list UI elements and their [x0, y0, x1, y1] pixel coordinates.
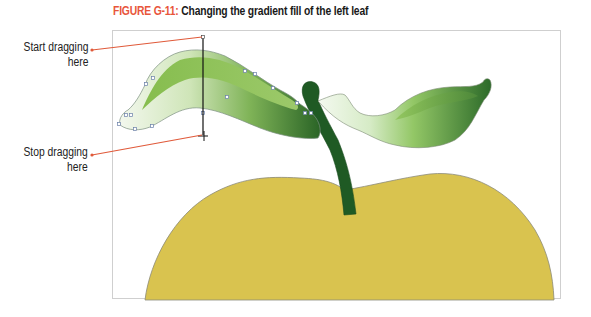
callout-stop-dot: [90, 153, 93, 156]
callout-start-line: [92, 37, 202, 50]
callout-stop-line: [92, 135, 202, 155]
illustration-canvas: [0, 0, 591, 317]
callout-start-dot: [90, 48, 93, 51]
